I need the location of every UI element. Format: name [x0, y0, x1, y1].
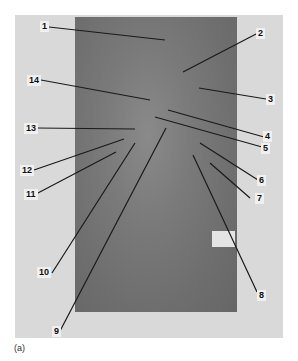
label-9: 9: [52, 326, 61, 337]
label-5: 5: [261, 143, 270, 154]
label-11: 11: [24, 189, 38, 200]
label-6: 6: [257, 175, 266, 186]
label-7: 7: [255, 193, 264, 204]
label-10: 10: [37, 267, 51, 278]
leader-lines: [0, 0, 298, 361]
figure-caption: (a): [14, 343, 25, 353]
label-1: 1: [40, 21, 49, 32]
label-12: 12: [20, 165, 34, 176]
label-13: 13: [24, 123, 38, 134]
label-8: 8: [257, 290, 266, 301]
label-4: 4: [263, 131, 272, 142]
label-3: 3: [266, 94, 275, 105]
label-14: 14: [27, 75, 41, 86]
label-2: 2: [256, 28, 265, 39]
